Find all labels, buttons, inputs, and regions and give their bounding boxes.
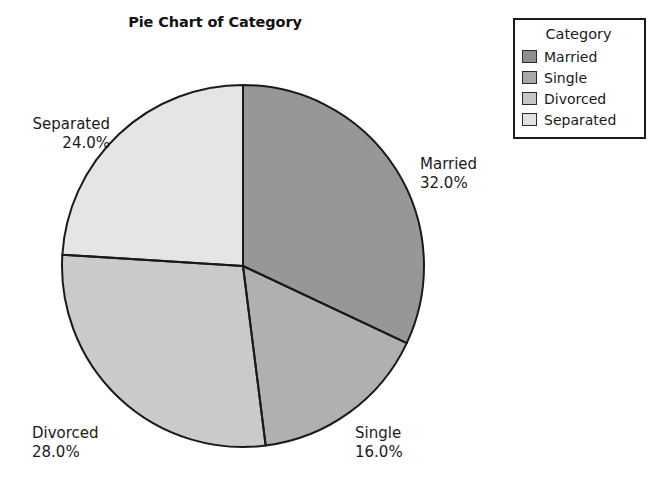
pie-chart-plot-area (0, 0, 480, 478)
pie-svg (0, 0, 480, 478)
slice-label-divorced: Divorced 28.0% (32, 424, 99, 462)
legend-item-single: Single (522, 67, 637, 88)
slice-label-single-percent: 16.0% (355, 443, 403, 462)
legend-swatch-married (522, 50, 537, 63)
slice-label-married-percent: 32.0% (420, 174, 477, 193)
legend-item-divorced: Divorced (522, 88, 637, 109)
pie-slice-texture-divorced (62, 255, 266, 447)
legend-label-married: Married (544, 48, 597, 66)
legend-label-separated: Separated (544, 111, 616, 129)
slice-label-married: Married 32.0% (420, 155, 477, 193)
legend-swatch-separated (522, 113, 537, 126)
slice-label-single: Single 16.0% (355, 424, 403, 462)
slice-label-separated-name: Separated (8, 115, 110, 134)
legend-label-divorced: Divorced (544, 90, 606, 108)
legend-items: MarriedSingleDivorcedSeparated (522, 46, 637, 130)
pie-chart-figure: Pie Chart of Category Married 32.0% Sing… (0, 0, 655, 478)
slice-label-single-name: Single (355, 424, 403, 443)
slice-label-separated: Separated 24.0% (8, 115, 110, 153)
legend-swatch-divorced (522, 92, 537, 105)
legend-item-separated: Separated (522, 109, 637, 130)
legend-item-married: Married (522, 46, 637, 67)
slice-label-married-name: Married (420, 155, 477, 174)
slice-label-divorced-name: Divorced (32, 424, 99, 443)
legend-label-single: Single (544, 69, 587, 87)
slice-label-separated-percent: 24.0% (8, 134, 110, 153)
legend-title: Category (522, 25, 637, 44)
slice-label-divorced-percent: 28.0% (32, 443, 99, 462)
legend-swatch-single (522, 71, 537, 84)
pie-slice-texture-separated (62, 85, 243, 266)
chart-legend: Category MarriedSingleDivorcedSeparated (513, 18, 646, 139)
